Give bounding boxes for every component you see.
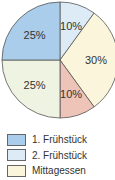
slice-percent-label: 25% xyxy=(24,29,46,41)
legend-item-mittagessen: Mittagessen xyxy=(7,163,87,179)
slice-percent-label: 25% xyxy=(24,79,46,91)
legend: 1. Frühstück 2. Frühstück Mittagessen xyxy=(7,132,87,179)
pie-chart: 10%30%10%25%25% xyxy=(0,0,115,120)
legend-label: Mittagessen xyxy=(32,165,86,176)
legend-label: 2. Frühstück xyxy=(32,150,87,161)
legend-item-1-fruehstueck: 1. Frühstück xyxy=(7,132,87,148)
slice-percent-label: 10% xyxy=(60,20,82,32)
slice-percent-label: 30% xyxy=(85,54,107,66)
slice-percent-label: 10% xyxy=(60,88,82,100)
legend-label: 1. Frühstück xyxy=(32,134,87,145)
legend-swatch xyxy=(7,149,26,161)
legend-swatch xyxy=(7,134,26,146)
legend-swatch xyxy=(7,165,26,177)
legend-item-2-fruehstueck: 2. Frühstück xyxy=(7,148,87,164)
